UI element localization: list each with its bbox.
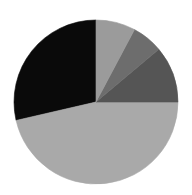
pie-slice-group: [14, 20, 178, 184]
pie-chart-canvas: [0, 0, 192, 195]
pie-chart-figure: [0, 0, 192, 195]
